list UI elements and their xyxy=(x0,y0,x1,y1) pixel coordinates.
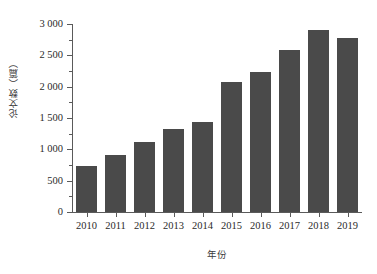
y-axis-minor-tick xyxy=(69,102,72,103)
bar xyxy=(308,30,328,212)
x-axis-tick-label: 2014 xyxy=(192,219,213,232)
y-axis-tick-label: 3 000 xyxy=(39,17,63,30)
x-axis-tick xyxy=(174,213,175,217)
x-axis-tick-label: 2010 xyxy=(76,219,97,232)
y-axis-minor-tick xyxy=(69,196,72,197)
y-axis-tick: 2 000 xyxy=(67,87,72,88)
bar xyxy=(337,38,357,212)
x-axis-tick xyxy=(232,213,233,217)
x-axis-tick-label: 2019 xyxy=(337,219,358,232)
y-axis-tick: 500 xyxy=(67,181,72,182)
y-axis-tick-label: 1 500 xyxy=(39,111,63,124)
y-axis-tick: 2 500 xyxy=(67,55,72,56)
x-axis-tick-label: 2011 xyxy=(105,219,126,232)
bar xyxy=(192,122,212,212)
bar xyxy=(76,166,96,212)
x-axis-tick-label: 2013 xyxy=(163,219,184,232)
y-axis-title: 论文数（篇） xyxy=(8,58,22,118)
x-axis-tick xyxy=(290,213,291,217)
y-axis-tick: 0 xyxy=(67,212,72,213)
bar xyxy=(134,142,154,212)
y-axis-tick-label: 2 500 xyxy=(39,48,63,61)
bar xyxy=(163,129,183,212)
x-axis-title: 年份 xyxy=(72,247,362,261)
x-axis-tick-label: 2018 xyxy=(308,219,329,232)
x-axis-tick xyxy=(203,213,204,217)
y-axis-minor-tick xyxy=(69,165,72,166)
x-axis-tick xyxy=(87,213,88,217)
y-axis-tick-label: 1 000 xyxy=(39,142,63,155)
bar xyxy=(221,82,241,212)
y-axis-minor-tick xyxy=(69,71,72,72)
y-axis-tick: 3 000 xyxy=(67,24,72,25)
x-axis-tick xyxy=(319,213,320,217)
bar xyxy=(279,50,299,212)
x-axis-tick-label: 2017 xyxy=(279,219,300,232)
bar xyxy=(105,155,125,212)
x-axis-tick-label: 2012 xyxy=(134,219,155,232)
y-axis-line xyxy=(72,24,73,213)
x-axis-tick xyxy=(348,213,349,217)
y-axis-tick-label: 500 xyxy=(47,174,63,187)
x-axis-tick-label: 2016 xyxy=(250,219,271,232)
bar-chart: 论文数（篇） 05001 0001 5002 0002 5003 000 201… xyxy=(0,0,377,274)
y-axis-tick-label: 2 000 xyxy=(39,80,63,93)
x-axis-tick xyxy=(116,213,117,217)
y-axis-minor-tick xyxy=(69,134,72,135)
y-axis-tick-label: 0 xyxy=(58,205,63,218)
y-axis-tick: 1 500 xyxy=(67,118,72,119)
y-axis-tick: 1 000 xyxy=(67,149,72,150)
x-axis-tick xyxy=(261,213,262,217)
x-axis-tick xyxy=(145,213,146,217)
y-axis-minor-tick xyxy=(69,40,72,41)
bar xyxy=(250,72,270,212)
x-axis-tick-label: 2015 xyxy=(221,219,242,232)
plot-area: 05001 0001 5002 0002 5003 000 2010201120… xyxy=(72,24,362,213)
